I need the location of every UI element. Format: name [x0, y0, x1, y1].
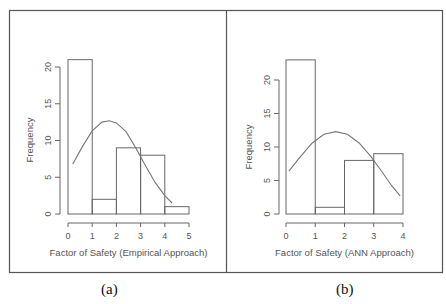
histogram-bar — [92, 199, 116, 214]
histogram-bar — [286, 60, 315, 214]
y-axis-label: Frequency — [243, 124, 254, 169]
x-axis-label: Factor of Safety (Empirical Approach) — [50, 247, 208, 258]
histogram-bar — [374, 154, 403, 214]
x-tick-label: 2 — [114, 231, 119, 241]
y-tick-label: 20 — [43, 62, 53, 72]
histogram-bar — [116, 148, 140, 214]
histogram-bar — [315, 207, 344, 214]
histogram-panel-a: 05101520Frequency012345Factor of Safety … — [24, 60, 207, 258]
y-tick-label: 5 — [262, 178, 272, 183]
y-tick-label: 0 — [262, 211, 272, 216]
y-tick-label: 20 — [262, 75, 272, 85]
y-tick-label: 10 — [262, 142, 272, 152]
x-tick-label: 2 — [342, 231, 347, 241]
y-tick-label: 5 — [43, 175, 53, 180]
panel-caption-a: (a) — [101, 281, 118, 298]
x-tick-label: 5 — [186, 231, 191, 241]
y-axis-label: Frequency — [24, 117, 35, 162]
x-tick-label: 3 — [371, 231, 376, 241]
y-tick-label: 0 — [43, 211, 53, 216]
y-tick-label: 15 — [43, 99, 53, 109]
density-curve — [73, 121, 172, 203]
x-tick-label: 1 — [313, 231, 318, 241]
y-tick-label: 15 — [262, 108, 272, 118]
histogram-panel-b: 05101520Frequency01234Factor of Safety (… — [243, 60, 414, 258]
x-axis-label: Factor of Safety (ANN Approach) — [275, 247, 414, 258]
x-tick-label: 3 — [138, 231, 143, 241]
x-tick-label: 4 — [400, 231, 405, 241]
x-tick-label: 0 — [283, 231, 288, 241]
x-tick-label: 0 — [65, 231, 70, 241]
histogram-bar — [345, 160, 374, 214]
y-tick-label: 10 — [43, 135, 53, 145]
x-tick-label: 4 — [162, 231, 167, 241]
figure: 05101520Frequency012345Factor of Safety … — [0, 0, 446, 304]
x-tick-label: 1 — [90, 231, 95, 241]
histogram-bar — [165, 207, 189, 214]
panel-caption-b: (b) — [336, 281, 354, 298]
